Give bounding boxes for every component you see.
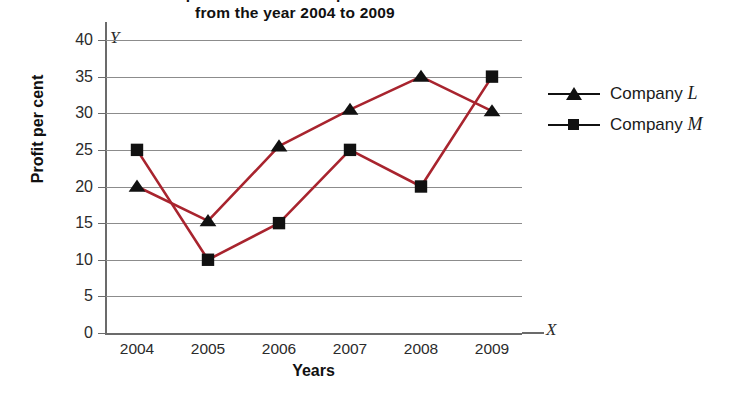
x-tick-label: 2009 [475,340,509,358]
y-tick-label: 20 [75,178,93,196]
legend-label-company-m: Company M [610,114,703,135]
line-chart-figure: Profit per cent of two companies L and M… [0,0,740,403]
y-tick-label: 30 [75,104,93,122]
y-tick-label: 10 [75,251,93,269]
x-tick-label: 2006 [262,340,296,358]
series-line-company-l [137,77,492,221]
data-point-square [131,144,143,156]
data-point-square [273,217,285,229]
series-layer [105,40,522,333]
triangle-marker-icon [548,84,600,104]
x-axis-title: Years [105,362,522,380]
x-tick-label: 2004 [120,340,154,358]
data-point-triangle [271,139,288,151]
y-axis-title: Profit per cent [29,39,47,219]
chart-title-line-2: from the year 2004 to 2009 [60,3,530,22]
legend-item-company-m[interactable]: Company M [548,109,733,140]
data-point-square [202,254,214,266]
gridline [105,333,522,335]
y-tick-label: 25 [75,141,93,159]
data-point-square [344,144,356,156]
data-point-triangle [413,70,430,82]
y-tick-label: 40 [75,31,93,49]
square-marker-icon [548,115,600,135]
legend-item-company-l[interactable]: Company L [548,78,733,109]
x-tick-label: 2005 [191,340,225,358]
y-tick-label: 35 [75,68,93,86]
data-point-square [486,70,498,82]
x-axis-symbol: X [546,320,556,340]
y-axis-tick [98,333,106,334]
legend-label-company-l: Company L [610,83,698,104]
data-point-triangle [129,180,146,192]
data-point-triangle [342,103,359,115]
data-point-triangle [484,104,501,116]
chart-title: Profit per cent of two companies L and M… [60,0,530,22]
data-point-square [415,180,427,192]
plot-area: 0510152025303540 20042005200620072008200… [105,40,522,333]
chart-legend: Company L Company M [548,78,733,140]
y-tick-label: 0 [84,324,93,342]
x-tick-label: 2008 [404,340,438,358]
series-line-company-m [137,77,492,260]
x-tick-label: 2007 [333,340,367,358]
x-axis-extension [522,332,544,334]
y-tick-label: 5 [84,287,93,305]
y-tick-label: 15 [75,214,93,232]
